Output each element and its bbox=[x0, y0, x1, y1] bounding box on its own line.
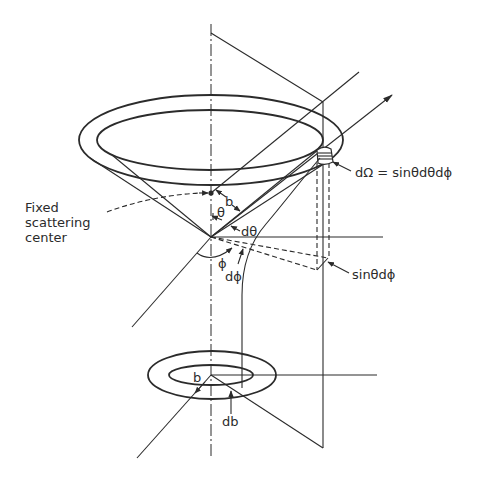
label-center: center bbox=[25, 230, 67, 245]
label-scattering: scattering bbox=[25, 215, 91, 230]
lower-right-line bbox=[211, 375, 323, 448]
label-fixed: Fixed bbox=[25, 200, 59, 215]
scattering-center-leader bbox=[107, 193, 199, 212]
scattering-diagram: Fixed scattering center b θ dθ ϕ dϕ dΩ =… bbox=[0, 0, 477, 484]
solid-angle-pointer bbox=[333, 162, 351, 171]
asymptote-line bbox=[211, 72, 359, 193]
diagram-canvas: Fixed scattering center b θ dθ ϕ dϕ dΩ =… bbox=[0, 0, 477, 484]
incident-direction-line bbox=[132, 237, 211, 327]
scattering-center-dot bbox=[208, 190, 213, 195]
dphi-arrow bbox=[238, 249, 243, 264]
inner-cone-rim bbox=[97, 110, 323, 170]
dtheta-arrow bbox=[231, 226, 240, 231]
label-b-lower: b bbox=[193, 370, 201, 385]
label-db: db bbox=[222, 414, 239, 429]
phi-plus-dphi-projection-dashed bbox=[211, 237, 328, 258]
top-projection-line bbox=[211, 33, 323, 102]
sin-theta-dphi-pointer bbox=[328, 262, 349, 273]
label-d-theta: dθ bbox=[241, 224, 257, 239]
label-sin-theta-dphi: sinθdϕ bbox=[352, 267, 395, 282]
label-b-upper: b bbox=[225, 194, 233, 209]
particle-trajectory bbox=[242, 158, 320, 388]
phi-arc bbox=[197, 248, 232, 257]
label-solid-angle: dΩ = sinθdθdϕ bbox=[355, 165, 452, 180]
solid-angle-patch bbox=[317, 147, 333, 164]
label-d-phi: dϕ bbox=[225, 269, 242, 284]
label-theta: θ bbox=[217, 205, 225, 220]
